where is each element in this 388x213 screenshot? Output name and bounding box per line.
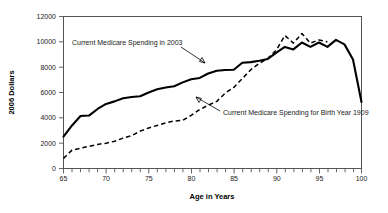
y-tick-label-4000: 4000 — [40, 114, 56, 121]
x-axis-tick-labels: 65 70 75 80 85 90 95 100 — [60, 175, 368, 182]
x-tick-label-70: 70 — [102, 175, 110, 182]
x-tick-label-80: 80 — [188, 175, 196, 182]
y-tick-label-12000: 12000 — [37, 13, 57, 20]
y-axis-tick-labels: 12000 10000 8000 6000 4000 2000 0 — [37, 13, 57, 172]
x-tick-label-90: 90 — [273, 175, 281, 182]
annotation-spending-2003-label: Current Medicare Spending in 2003 — [72, 39, 183, 47]
y-axis-ticks — [59, 17, 64, 169]
y-tick-label-0: 0 — [52, 165, 56, 172]
y-axis-title: 2006 Dollars — [7, 70, 16, 114]
annotation-birth-year-1909-label: Current Medicare Spending for Birth Year… — [223, 109, 369, 117]
x-tick-label-75: 75 — [145, 175, 153, 182]
x-axis-title: Age in Years — [190, 192, 235, 201]
leader-line-2003 — [181, 47, 205, 63]
leader-line-1909-arrow — [196, 97, 202, 103]
x-axis-minor-ticks — [64, 169, 362, 174]
y-tick-label-6000: 6000 — [40, 89, 56, 96]
line-chart: 12000 10000 8000 6000 4000 2000 0 2006 D… — [0, 0, 388, 213]
x-tick-label-100: 100 — [356, 175, 368, 182]
y-tick-label-8000: 8000 — [40, 64, 56, 71]
x-tick-label-85: 85 — [230, 175, 238, 182]
x-tick-label-65: 65 — [60, 175, 68, 182]
y-tick-label-10000: 10000 — [37, 38, 57, 45]
x-tick-label-95: 95 — [316, 175, 324, 182]
series-line-spending-2003 — [64, 40, 362, 137]
chart-figure: 12000 10000 8000 6000 4000 2000 0 2006 D… — [0, 0, 388, 213]
leader-line-1909 — [196, 97, 220, 111]
series-line-birth-year-1909 — [64, 34, 328, 159]
annotation-leaders — [181, 47, 220, 111]
leader-line-2003-arrow — [200, 58, 206, 64]
y-tick-label-2000: 2000 — [40, 140, 56, 147]
